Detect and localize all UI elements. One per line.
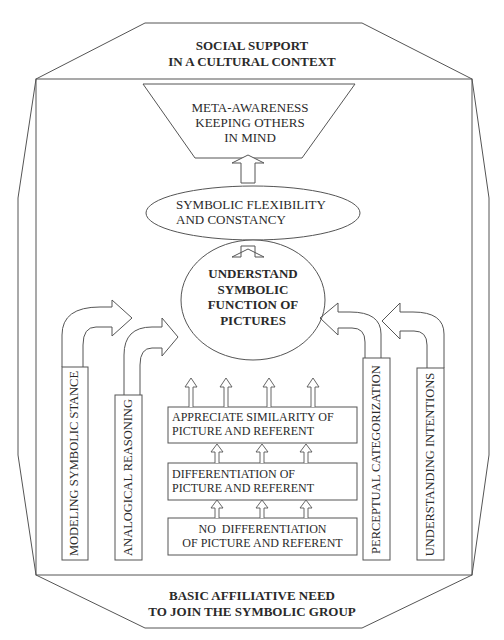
arrow-flex-to-meta [232,155,264,183]
stage-label-3: NO DIFFERENTIATION OF PICTURE AND REFERE… [168,522,357,551]
outer-bottom-label: BASIC AFFILIATIVE NEED TO JOIN THE SYMBO… [130,588,374,619]
arrows-stage3-to-stage2 [211,500,312,518]
arrows-stage2-to-stage1 [211,444,312,463]
factor-modeling-symbolic-stance: MODELING SYMBOLIC STANCE [62,367,88,560]
arrows-stage1-to-core [185,378,319,407]
factor-perceptual-categorization: PERCEPTUAL CATEGORIZATION [363,358,390,560]
outer-top-label: SOCIAL SUPPORT IN A CULTURAL CONTEXT [130,38,374,69]
stage-label-2: DIFFERENTIATION OF PICTURE AND REFERENT [170,467,358,496]
flexibility-label: SYMBOLIC FLEXIBILITY AND CONSTANCY [176,198,336,228]
meta-awareness-label: META-AWARENESS KEEPING OTHERS IN MIND [160,101,340,146]
factor-analogical-reasoning: ANALOGICAL REASONING [115,395,142,560]
analogical-curved-arrow [124,318,178,395]
perceptual-curved-arrow [320,303,381,358]
stage-label-1: APPRECIATE SIMILARITY OF PICTURE AND REF… [170,410,358,439]
core-ellipse-label: UNDERSTAND SYMBOLIC FUNCTION OF PICTURES [193,266,313,328]
factor-understanding-intentions: UNDERSTANDING INTENTIONS [417,368,444,560]
modeling-curved-arrow [62,300,132,367]
intentions-curved-arrow [382,303,444,368]
